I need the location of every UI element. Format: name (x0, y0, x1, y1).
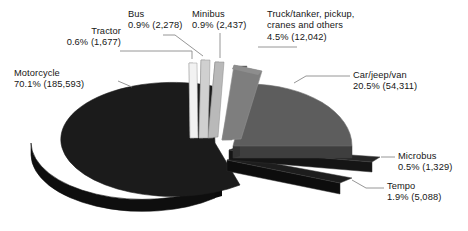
label-minibus-name: Minibus (192, 9, 246, 20)
label-tempo-name: Tempo (387, 181, 441, 192)
label-tempo: Tempo 1.9% (5,088) (387, 181, 441, 204)
label-bus-name: Bus (128, 9, 182, 20)
label-microbus-value: 0.5% (1,329) (398, 162, 452, 173)
label-bus: Bus 0.9% (2,278) (128, 9, 182, 32)
label-truck-tanker-name-line2: cranes and others (267, 20, 354, 31)
label-bus-value: 0.9% (2,278) (128, 20, 182, 31)
label-minibus-value: 0.9% (2,437) (192, 20, 246, 31)
label-truck-tanker: Truck/tanker, pickup, cranes and others … (267, 9, 354, 43)
label-minibus: Minibus 0.9% (2,437) (192, 9, 246, 32)
leader-line-tractor (120, 51, 192, 59)
pie-chart-figure: Motorcycle 70.1% (185,593) Tractor 0.6% … (0, 0, 468, 231)
slice-tractor (189, 63, 198, 138)
label-motorcycle-name: Motorcycle (14, 68, 84, 79)
label-microbus-name: Microbus (398, 151, 452, 162)
label-tempo-value: 1.9% (5,088) (387, 192, 441, 203)
leader-line-tempo (352, 180, 384, 188)
label-tractor: Tractor 0.6% (1,677) (45, 26, 121, 49)
label-car-jeep-van-value: 20.5% (54,311) (353, 81, 417, 92)
leader-line-motorcycle (118, 81, 132, 87)
label-car-jeep-van: Car/jeep/van 20.5% (54,311) (353, 70, 417, 93)
label-truck-tanker-name-line1: Truck/tanker, pickup, (267, 9, 354, 20)
label-truck-tanker-value: 4.5% (12,042) (267, 32, 354, 43)
leader-line-bus (163, 35, 203, 56)
label-tractor-name: Tractor (45, 26, 121, 37)
label-motorcycle: Motorcycle 70.1% (185,593) (14, 68, 84, 91)
leader-line-car (294, 76, 350, 83)
label-car-jeep-van-name: Car/jeep/van (353, 70, 417, 81)
label-tractor-value: 0.6% (1,677) (45, 37, 121, 48)
label-microbus: Microbus 0.5% (1,329) (398, 151, 452, 174)
label-motorcycle-value: 70.1% (185,593) (14, 79, 84, 90)
slice-bus (199, 60, 210, 138)
